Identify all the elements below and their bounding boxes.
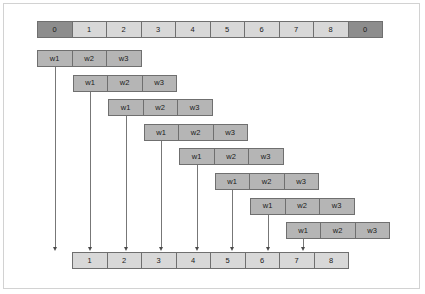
output-cell: 5 [210,252,246,269]
mapping-arrow-line [197,165,198,248]
input-cell: 4 [175,21,211,38]
mapping-arrow-line [161,141,162,248]
output-cell: 6 [245,252,281,269]
window-cell: w1 [37,50,73,67]
input-cell: 7 [279,21,315,38]
mapping-arrow-head [301,247,305,251]
window-cell: w2 [107,75,143,92]
window-row-2: w1w2w3 [73,75,178,92]
input-sequence-row: 0123456780 [37,21,383,38]
output-cell: 1 [72,252,108,269]
window-cell: w3 [248,148,284,165]
input-cell: 0 [348,21,384,38]
mapping-arrow-head [230,247,234,251]
input-cell: 1 [72,21,108,38]
window-row-7: w1w2w3 [250,198,355,215]
window-cell: w2 [143,99,179,116]
window-cell: w3 [355,222,391,239]
window-cell: w2 [249,173,285,190]
output-cell: 2 [107,252,143,269]
window-cell: w2 [214,148,250,165]
input-cell: 8 [313,21,349,38]
window-cell: w3 [213,124,249,141]
output-cell: 4 [176,252,212,269]
output-cell: 7 [279,252,315,269]
input-cell: 2 [106,21,142,38]
output-cell: 3 [141,252,177,269]
figure-frame: 0123456780w1w2w3w1w2w3w1w2w3w1w2w3w1w2w3… [3,3,420,289]
window-row-1: w1w2w3 [37,50,142,67]
window-cell: w1 [286,222,322,239]
diagram-canvas: 0123456780w1w2w3w1w2w3w1w2w3w1w2w3w1w2w3… [0,0,425,294]
window-cell: w1 [250,198,286,215]
window-cell: w1 [144,124,180,141]
window-cell: w1 [179,148,215,165]
window-cell: w1 [215,173,251,190]
window-cell: w2 [285,198,321,215]
window-cell: w3 [284,173,320,190]
mapping-arrow-head [266,247,270,251]
window-row-6: w1w2w3 [215,173,320,190]
input-cell: 3 [141,21,177,38]
window-cell: w1 [108,99,144,116]
input-cell: 5 [210,21,246,38]
input-cell: 0 [37,21,73,38]
window-cell: w3 [177,99,213,116]
output-sequence-row: 12345678 [72,252,349,269]
mapping-arrow-head [88,247,92,251]
mapping-arrow-line [90,92,91,248]
input-cell: 6 [244,21,280,38]
window-row-4: w1w2w3 [144,124,249,141]
window-cell: w2 [320,222,356,239]
mapping-arrow-line [55,67,56,248]
window-cell: w1 [73,75,109,92]
window-row-3: w1w2w3 [108,99,213,116]
window-cell: w2 [72,50,108,67]
mapping-arrow-head [159,247,163,251]
window-cell: w3 [106,50,142,67]
window-cell: w2 [178,124,214,141]
mapping-arrow-head [195,247,199,251]
output-cell: 8 [314,252,350,269]
window-cell: w3 [142,75,178,92]
window-cell: w3 [319,198,355,215]
mapping-arrow-line [268,215,269,248]
window-row-5: w1w2w3 [179,148,284,165]
mapping-arrow-head [53,247,57,251]
mapping-arrow-head [124,247,128,251]
window-row-8: w1w2w3 [286,222,391,239]
mapping-arrow-line [232,190,233,248]
mapping-arrow-line [126,116,127,248]
